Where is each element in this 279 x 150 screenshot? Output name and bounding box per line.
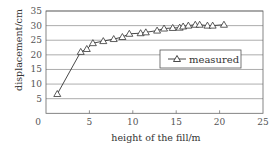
x-tick-label: 15 bbox=[170, 117, 182, 127]
x-tick-label: 0 bbox=[35, 117, 41, 127]
y-axis-ticks: 5101520253035 bbox=[31, 6, 43, 104]
y-axis-title: displacement/cm bbox=[13, 9, 24, 91]
x-tick-label: 5 bbox=[87, 117, 93, 127]
triangle-marker-icon bbox=[119, 34, 126, 40]
y-tick-label: 10 bbox=[31, 79, 43, 89]
x-tick-label: 20 bbox=[214, 117, 226, 127]
triangle-marker-icon bbox=[220, 21, 227, 27]
legend: measured bbox=[160, 50, 241, 68]
y-tick-label: 5 bbox=[36, 94, 42, 104]
x-axis-ticks: 0510152025 bbox=[35, 110, 269, 127]
x-axis-title: height of the fill/m bbox=[111, 132, 200, 143]
y-tick-label: 30 bbox=[31, 21, 43, 31]
y-tick-label: 15 bbox=[31, 64, 43, 74]
x-tick-label: 25 bbox=[257, 117, 269, 127]
legend-label: measured bbox=[189, 54, 240, 65]
triangle-marker-icon bbox=[54, 91, 61, 97]
y-tick-label: 20 bbox=[31, 50, 43, 60]
y-tick-label: 35 bbox=[31, 6, 43, 16]
chart: 0510152025 5101520253035 measured height… bbox=[0, 0, 279, 150]
x-tick-label: 10 bbox=[127, 117, 139, 127]
y-tick-label: 25 bbox=[31, 35, 43, 45]
